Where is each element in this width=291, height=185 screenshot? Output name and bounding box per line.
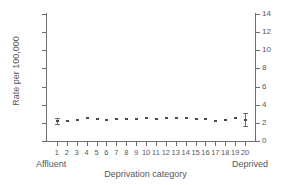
y-tick-label: 4	[262, 101, 266, 109]
x-tick-mark-13	[176, 142, 177, 146]
y-tick-label: 14	[262, 10, 271, 18]
data-point-16	[204, 118, 207, 120]
y-tick-mark	[256, 87, 260, 88]
chart-container: 0022446688101012121414 12345678910111213…	[0, 0, 291, 185]
x-tick-mark-9	[136, 142, 137, 146]
x-tick-mark-7	[116, 142, 117, 146]
y-tick-label: 6	[262, 83, 266, 91]
x-tick-mark-4	[87, 142, 88, 146]
data-point-18	[224, 119, 227, 121]
y-tick-mark	[42, 14, 46, 15]
y-tick-label: 2	[262, 119, 266, 127]
y-tick-mark	[42, 105, 46, 106]
x-axis-label: Deprivation category	[0, 169, 291, 179]
error-bar-cap-lower	[243, 126, 248, 127]
error-bar-cap-lower	[55, 124, 60, 125]
data-point-8	[125, 118, 128, 120]
data-point-7	[115, 118, 118, 120]
x-tick-mark-19	[235, 142, 236, 146]
data-point-2	[66, 120, 69, 122]
x-tick-mark-6	[106, 142, 107, 146]
y-axis-label: Rate per 100,000	[11, 11, 21, 131]
chart-title-clipped	[0, 0, 291, 7]
data-point-10	[145, 117, 148, 119]
data-point-12	[165, 117, 168, 119]
x-tick-mark-15	[196, 142, 197, 146]
data-point-11	[155, 118, 158, 120]
data-point-19	[234, 117, 237, 119]
y-tick-mark	[42, 32, 46, 33]
x-axis-anchor-affluent: Affluent	[36, 159, 66, 169]
data-point-1	[56, 120, 59, 122]
y-tick-mark	[256, 14, 260, 15]
x-tick-mark-18	[225, 142, 226, 146]
y-tick-label: 8	[262, 64, 266, 72]
x-tick-mark-3	[77, 142, 78, 146]
y-tick-mark	[42, 141, 46, 142]
data-point-9	[135, 118, 138, 120]
plot-area	[47, 14, 255, 141]
y-tick-mark	[42, 50, 46, 51]
x-tick-mark-1	[57, 142, 58, 146]
x-tick-mark-10	[146, 142, 147, 146]
x-tick-mark-17	[215, 142, 216, 146]
x-tick-mark-14	[186, 142, 187, 146]
data-point-3	[76, 119, 79, 121]
data-point-5	[96, 118, 99, 120]
x-tick-mark-20	[245, 142, 246, 146]
x-tick-mark-2	[67, 142, 68, 146]
x-tick-mark-8	[126, 142, 127, 146]
y-tick-mark	[42, 87, 46, 88]
data-point-15	[195, 118, 198, 120]
y-tick-mark	[256, 32, 260, 33]
data-point-20	[244, 119, 247, 121]
y-tick-label: 12	[262, 28, 271, 36]
x-tick-label-20: 20	[238, 149, 252, 157]
x-tick-mark-16	[205, 142, 206, 146]
x-axis-anchor-deprived: Deprived	[232, 159, 268, 169]
y-tick-label: 0	[262, 137, 266, 145]
y-tick-mark	[256, 123, 260, 124]
data-point-14	[185, 117, 188, 119]
y-axis-left-line	[46, 13, 47, 142]
data-point-4	[86, 117, 89, 119]
y-tick-mark	[256, 141, 260, 142]
y-tick-label: 10	[262, 46, 271, 54]
y-tick-mark	[256, 50, 260, 51]
error-bar-cap-upper	[243, 113, 248, 114]
data-point-6	[105, 119, 108, 121]
data-point-17	[214, 120, 217, 122]
y-tick-mark	[42, 68, 46, 69]
y-tick-mark	[256, 105, 260, 106]
y-tick-mark	[256, 68, 260, 69]
y-tick-mark	[42, 123, 46, 124]
data-point-13	[175, 117, 178, 119]
x-tick-mark-11	[156, 142, 157, 146]
x-tick-mark-12	[166, 142, 167, 146]
x-tick-mark-5	[97, 142, 98, 146]
error-bar-cap-upper	[55, 118, 60, 119]
